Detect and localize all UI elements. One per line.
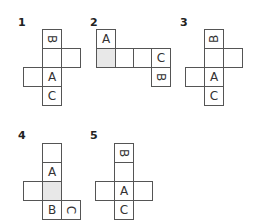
face-letter: A [210, 70, 218, 84]
net-face: C [42, 86, 62, 106]
face-letter: C [64, 206, 78, 214]
net-face: C [114, 200, 134, 220]
net-face [61, 48, 81, 68]
face-letter: C [48, 89, 56, 103]
net-face: A [96, 29, 116, 49]
net-face-shaded [42, 181, 62, 201]
net-face [223, 48, 243, 68]
net-face: B [114, 143, 134, 163]
face-letter: A [120, 184, 128, 198]
face-letter: B [117, 149, 131, 157]
net-face: C [204, 86, 224, 106]
net-face: A [42, 162, 62, 182]
net-face-shaded [96, 48, 116, 68]
net-face: B [42, 200, 62, 220]
net-face [42, 143, 62, 163]
puzzle-4-label: 4 [18, 130, 26, 141]
net-face [42, 48, 62, 68]
face-letter: A [48, 70, 56, 84]
net-face: A [42, 67, 62, 87]
puzzle-3-label: 3 [180, 17, 188, 28]
puzzle-5-label: 5 [90, 130, 98, 141]
net-face [23, 181, 43, 201]
net-face: A [114, 181, 134, 201]
net-face [95, 181, 115, 201]
face-letter: C [157, 51, 165, 65]
net-face: B [42, 29, 62, 49]
puzzle-2-label: 2 [90, 17, 98, 28]
face-letter: C [120, 203, 128, 217]
net-face [115, 48, 135, 68]
face-letter: B [48, 203, 56, 217]
net-face [204, 48, 224, 68]
net-face: C [61, 200, 81, 220]
face-letter: C [210, 89, 218, 103]
face-letter: B [154, 73, 168, 81]
net-face [133, 48, 153, 68]
face-letter: B [207, 35, 221, 43]
face-letter: B [45, 35, 59, 43]
net-face: B [204, 29, 224, 49]
net-face [23, 67, 43, 87]
net-face [133, 181, 153, 201]
net-face: A [204, 67, 224, 87]
net-face: B [151, 67, 171, 87]
face-letter: A [102, 32, 110, 46]
net-face [185, 67, 205, 87]
net-face: C [151, 48, 171, 68]
face-letter: A [48, 165, 56, 179]
net-face [114, 162, 134, 182]
puzzle-1-label: 1 [18, 17, 26, 28]
